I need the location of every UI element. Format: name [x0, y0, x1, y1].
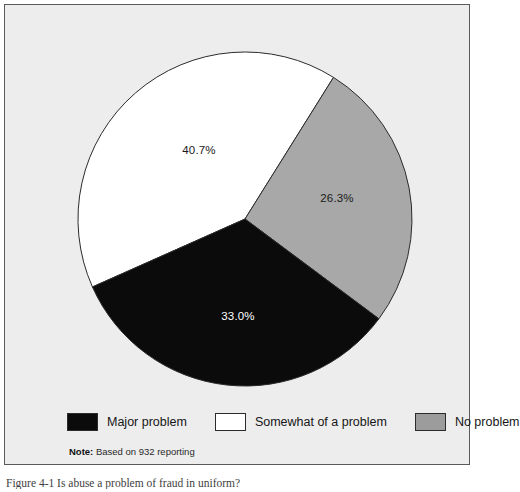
- legend-item-label: Somewhat of a problem: [255, 415, 387, 429]
- legend-item-label: Major problem: [107, 415, 187, 429]
- pie-slice-label: 40.7%: [182, 144, 216, 156]
- chart-legend: Major problemSomewhat of a problemNo pro…: [67, 410, 457, 434]
- pie-chart-area: 40.7%26.3%33.0%: [5, 5, 469, 395]
- pie-slices-group: [78, 52, 412, 386]
- legend-item[interactable]: Major problem: [67, 413, 187, 431]
- legend-item[interactable]: Somewhat of a problem: [215, 413, 387, 431]
- legend-swatch-black: [67, 413, 98, 431]
- legend-swatch-gray: [415, 413, 446, 431]
- note-text: Based on 932 reporting: [93, 446, 194, 457]
- pie-chart-svg: 40.7%26.3%33.0%: [5, 5, 469, 395]
- legend-swatch-white: [215, 413, 246, 431]
- figure-panel: 40.7%26.3%33.0% Major problemSomewhat of…: [4, 4, 470, 465]
- note-label: Note:: [69, 446, 93, 457]
- chart-note: Note: Based on 932 reporting: [69, 446, 195, 457]
- pie-slice-label: 26.3%: [320, 192, 354, 204]
- pie-slice-label: 33.0%: [221, 310, 255, 322]
- figure-caption: Figure 4-1 Is abuse a problem of fraud i…: [6, 477, 474, 489]
- legend-item[interactable]: No problem: [415, 413, 520, 431]
- legend-item-label: No problem: [455, 415, 520, 429]
